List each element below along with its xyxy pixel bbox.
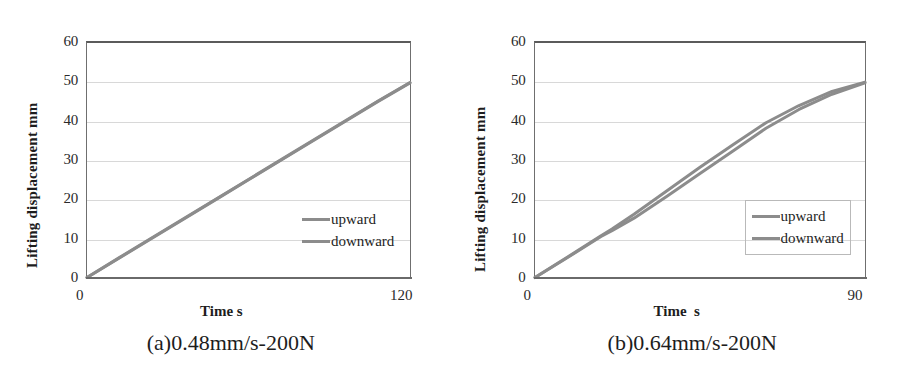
legend-item-upward-a: upward [302, 208, 394, 230]
legend-line-swatch-icon [752, 215, 780, 218]
x-axis-line-a [86, 277, 412, 279]
legend-a: upward downward [296, 204, 400, 257]
y-tick-label: 60 [38, 34, 78, 49]
y-tick-label: 30 [486, 152, 526, 167]
legend-label: downward [331, 234, 394, 249]
x-tick-min-a: 0 [76, 288, 84, 303]
legend-line-swatch-icon [302, 240, 330, 243]
chart-panel-b: 0102030405060 0 90 Lifting displacement … [462, 0, 923, 380]
legend-item-downward-b: downward [752, 227, 844, 249]
legend-item-upward-b: upward [752, 205, 844, 227]
y-axis-title-a: Lifting displacement mm [24, 103, 41, 268]
x-axis-line-b [534, 277, 867, 279]
y-axis-title-b: Lifting displacement mm [472, 107, 489, 272]
figure-container: 0102030405060 0 120 Lifting displacement… [0, 0, 923, 380]
legend-label: downward [781, 231, 844, 246]
x-tick-max-b: 90 [848, 288, 863, 303]
y-tick-label: 10 [38, 231, 78, 246]
chart-panel-a: 0102030405060 0 120 Lifting displacement… [0, 0, 462, 380]
y-tick-label: 40 [486, 113, 526, 128]
x-tick-max-a: 120 [390, 288, 413, 303]
legend-b: upward downward [745, 200, 851, 255]
y-tick-label: 20 [38, 191, 78, 206]
y-tick-label: 20 [486, 191, 526, 206]
y-tick-label: 10 [486, 231, 526, 246]
legend-label: upward [781, 209, 826, 224]
y-tick-label: 50 [38, 73, 78, 88]
panel-caption-b: (b)0.64mm/s-200N [462, 330, 923, 356]
y-tick-label: 0 [486, 270, 526, 285]
legend-line-swatch-icon [302, 218, 330, 221]
legend-item-downward-a: downward [302, 230, 394, 252]
y-tick-label: 0 [38, 270, 78, 285]
x-axis-title-b: Time s [654, 303, 700, 320]
y-tick-label: 50 [486, 73, 526, 88]
panel-caption-a: (a)0.48mm/s-200N [0, 330, 484, 356]
legend-label: upward [331, 212, 376, 227]
y-tick-label: 30 [38, 152, 78, 167]
x-axis-title-a: Time s [200, 303, 243, 320]
y-tick-label: 40 [38, 113, 78, 128]
legend-line-swatch-icon [752, 237, 780, 240]
x-tick-min-b: 0 [524, 288, 532, 303]
y-tick-label: 60 [486, 34, 526, 49]
